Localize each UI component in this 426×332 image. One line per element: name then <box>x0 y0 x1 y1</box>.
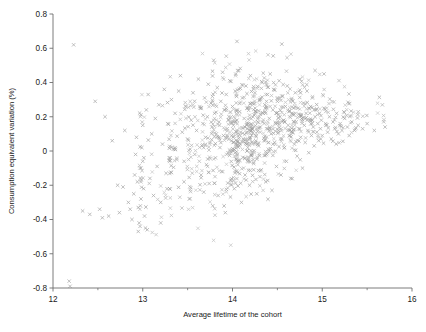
chart-background <box>0 0 426 332</box>
y-tick-label: -0.2 <box>33 181 48 190</box>
y-tick-label: -0.4 <box>33 215 48 224</box>
y-tick-label: -0.8 <box>33 284 48 293</box>
y-tick-label: 0.4 <box>36 78 48 87</box>
x-tick-label: 15 <box>318 295 328 304</box>
x-axis-title: Average lifetime of the cohort <box>183 310 283 319</box>
y-axis-title: Consumption equivalent variation (%) <box>7 87 16 214</box>
x-tick-label: 14 <box>228 295 238 304</box>
x-tick-label: 13 <box>138 295 148 304</box>
y-tick-label: 0.6 <box>36 44 48 53</box>
x-tick-label: 12 <box>48 295 58 304</box>
y-tick-label: 0 <box>42 147 47 156</box>
y-tick-label: 0.8 <box>36 10 48 19</box>
scatter-plot-figure: 0.80.60.40.20-0.2-0.4-0.6-0.8 1213141516… <box>0 0 426 332</box>
y-tick-label: -0.6 <box>33 250 48 259</box>
y-tick-label: 0.2 <box>36 113 48 122</box>
x-tick-label: 16 <box>407 295 417 304</box>
chart-canvas: 0.80.60.40.20-0.2-0.4-0.6-0.8 1213141516… <box>0 0 426 332</box>
